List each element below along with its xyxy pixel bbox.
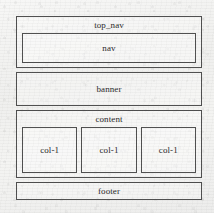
region-col-1-third-label: col-1 (159, 145, 178, 156)
region-top-nav-label: top_nav (22, 19, 196, 31)
region-nav-label: nav (102, 43, 115, 54)
region-content[interactable]: content col-1 col-1 col-1 (16, 110, 202, 178)
region-col-1-second-label: col-1 (99, 145, 118, 156)
region-col-1-first-label: col-1 (40, 145, 59, 156)
region-top-nav[interactable]: top_nav nav (16, 16, 202, 68)
layout-stack: top_nav nav banner content col-1 col-1 c… (16, 16, 202, 200)
region-content-label: content (22, 113, 196, 125)
region-banner-label: banner (96, 84, 121, 95)
region-col-1-second[interactable]: col-1 (81, 127, 136, 173)
region-col-1-first[interactable]: col-1 (22, 127, 77, 173)
content-columns: col-1 col-1 col-1 (22, 127, 196, 173)
region-footer-label: footer (98, 186, 120, 197)
wireframe-canvas: top_nav nav banner content col-1 col-1 c… (0, 0, 214, 213)
region-footer[interactable]: footer (16, 182, 202, 200)
region-col-1-third[interactable]: col-1 (141, 127, 196, 173)
region-banner[interactable]: banner (16, 72, 202, 106)
region-nav[interactable]: nav (22, 33, 196, 63)
